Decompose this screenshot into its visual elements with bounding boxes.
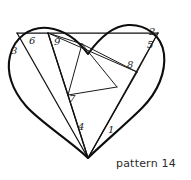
node-label-5: 5	[147, 40, 153, 50]
node-label-6: 6	[29, 36, 35, 46]
node-label-1: 1	[108, 125, 114, 135]
crease-9-to-8	[48, 33, 137, 72]
heart-crease-pattern-svg	[0, 0, 191, 180]
node-label-8: 8	[127, 60, 133, 70]
crease-inner-7-to-top	[68, 44, 82, 95]
pattern-caption: pattern 14	[116, 157, 176, 170]
node-label-9: 9	[54, 37, 60, 47]
node-label-2: 2	[149, 27, 155, 37]
node-label-7: 7	[69, 94, 75, 104]
crease-3-to-apex	[17, 33, 88, 158]
node-label-3: 3	[11, 46, 17, 56]
node-label-4: 4	[78, 122, 84, 132]
pattern-figure: 1 2 3 4 5 6 7 8 9 pattern 14	[0, 0, 191, 180]
